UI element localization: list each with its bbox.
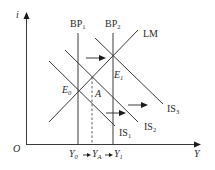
is3-curve <box>95 38 163 104</box>
arrow-right-icon <box>109 153 113 157</box>
y-axis-label: i <box>16 9 19 20</box>
is2-label: IS2 <box>144 121 156 133</box>
is-lm-bp-diagram: i Y O BP1 BP2 LM IS1 IS2 IS3 <box>0 0 215 170</box>
y0-tick-label: Y0 <box>69 148 79 160</box>
is1-curve <box>49 61 115 126</box>
e1-label: E1 <box>113 69 123 81</box>
is3-label: IS3 <box>167 103 179 115</box>
arrow-right-icon <box>119 110 126 116</box>
x-axis-label: Y <box>194 148 201 159</box>
e0-label: E0 <box>61 84 72 96</box>
bp-curves: BP1 BP2 <box>70 18 120 145</box>
arrow-right-icon <box>141 102 148 108</box>
y-axis-arrow-icon <box>24 12 30 19</box>
bp2-label: BP2 <box>105 18 120 30</box>
a-label: A <box>94 88 102 99</box>
bp1-label: BP1 <box>70 18 85 30</box>
origin-label: O <box>13 143 20 154</box>
ya-tick-label: YA <box>92 148 102 160</box>
axes: i Y O <box>13 9 201 159</box>
is2-curve <box>65 50 138 122</box>
lm-label: LM <box>143 28 158 39</box>
lm-curve-group: LM <box>49 28 158 122</box>
x-axis-arrow-icon <box>194 142 201 148</box>
is1-label: IS1 <box>119 127 131 139</box>
arrow-right-icon <box>87 153 91 157</box>
y1-tick-label: Y1 <box>114 148 123 160</box>
x-tick-labels: Y0 YA Y1 <box>69 148 123 160</box>
arrow-right-icon <box>99 55 106 61</box>
